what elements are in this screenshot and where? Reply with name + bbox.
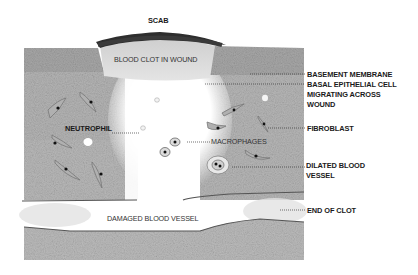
dilated-blood-vessel xyxy=(207,156,229,174)
vessel-small-left xyxy=(84,138,93,146)
epidermis-right xyxy=(208,46,304,75)
label-basal-epithelial-1: BASAL EPITHELIAL CELL xyxy=(307,80,397,89)
label-dilated-blood-vessel-1: DILATED BLOOD xyxy=(306,161,365,170)
label-basal-epithelial-2: MIGRATING ACROSS xyxy=(307,90,381,99)
vessel-small-right xyxy=(262,95,268,101)
label-basement-membrane: BASEMENT MEMBRANE xyxy=(307,70,392,79)
wound-healing-illustration xyxy=(0,0,418,275)
label-neutrophil: NEUTROPHIL xyxy=(65,124,112,133)
label-end-of-clot: END OF CLOT xyxy=(307,206,356,215)
label-scab: SCAB xyxy=(148,16,169,25)
label-damaged-blood-vessel: DAMAGED BLOOD VESSEL xyxy=(107,214,198,223)
label-dilated-blood-vessel-2: VESSEL xyxy=(306,171,335,180)
label-macrophages: MACROPHAGES xyxy=(211,137,267,146)
label-blood-clot: BLOOD CLOT IN WOUND xyxy=(114,55,197,64)
label-basal-epithelial-3: WOUND xyxy=(307,100,335,109)
label-fibroblast: FIBROBLAST xyxy=(307,124,354,133)
epidermis-left xyxy=(24,48,104,72)
